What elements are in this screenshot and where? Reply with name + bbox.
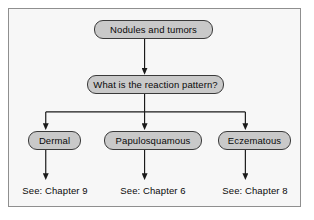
node-papulosquamous-label: Papulosquamous [116, 136, 191, 146]
node-eczematous[interactable]: Eczematous [218, 131, 291, 150]
diagram-frame: Nodules and tumors What is the reaction … [8, 8, 301, 207]
caption-see-chapter-6: See: Chapter 6 [113, 186, 193, 196]
node-reaction-pattern-question[interactable]: What is the reaction pattern? [87, 75, 224, 94]
node-eczematous-label: Eczematous [228, 136, 281, 146]
caption-see-chapter-8: See: Chapter 8 [215, 186, 295, 196]
node-dermal[interactable]: Dermal [28, 131, 81, 150]
node-nodules-and-tumors-label: Nodules and tumors [110, 25, 197, 35]
node-dermal-label: Dermal [39, 136, 70, 146]
node-papulosquamous[interactable]: Papulosquamous [104, 131, 202, 150]
node-nodules-and-tumors[interactable]: Nodules and tumors [94, 20, 213, 39]
node-reaction-pattern-question-label: What is the reaction pattern? [93, 80, 217, 90]
caption-see-chapter-9: See: Chapter 9 [15, 186, 95, 196]
figure-root: Nodules and tumors What is the reaction … [0, 0, 314, 220]
